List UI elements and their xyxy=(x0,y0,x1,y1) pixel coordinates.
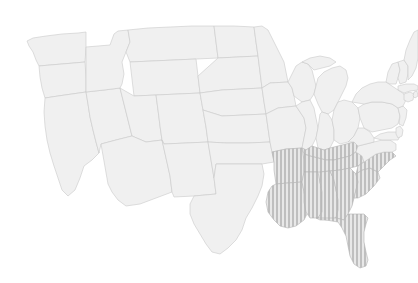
state-ID[interactable] xyxy=(86,30,130,92)
state-WA[interactable] xyxy=(27,32,86,66)
state-CT[interactable] xyxy=(404,92,414,102)
state-SD[interactable] xyxy=(198,56,262,93)
state-LA[interactable] xyxy=(266,182,308,228)
state-layer xyxy=(27,26,418,268)
state-AR[interactable] xyxy=(272,148,304,184)
us-map-svg xyxy=(0,0,418,283)
state-MT[interactable] xyxy=(126,26,218,62)
state-DE[interactable] xyxy=(396,126,403,138)
state-AZ[interactable] xyxy=(101,136,172,206)
state-ND[interactable] xyxy=(214,26,258,58)
state-FL[interactable] xyxy=(316,214,368,268)
state-RI[interactable] xyxy=(413,91,418,98)
state-WY[interactable] xyxy=(130,59,200,96)
state-OR[interactable] xyxy=(39,62,86,98)
us-choropleth-map xyxy=(0,0,418,283)
state-MO[interactable] xyxy=(266,106,306,152)
state-PA[interactable] xyxy=(358,102,400,132)
state-CO[interactable] xyxy=(156,93,208,144)
state-NE[interactable] xyxy=(200,88,266,116)
state-VT[interactable] xyxy=(386,62,400,84)
state-IN[interactable] xyxy=(316,112,334,150)
